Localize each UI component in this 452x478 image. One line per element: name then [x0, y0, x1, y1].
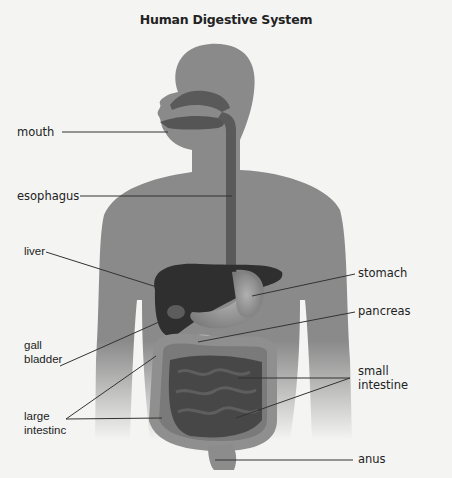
- label-large-intestine-line2: intestinc: [24, 423, 66, 437]
- small-intestine-organ: [169, 356, 262, 438]
- label-gall-bladder-line1: gall: [24, 338, 42, 352]
- label-small-intestine-line2: intestine: [358, 378, 408, 392]
- label-stomach: stomach: [358, 266, 407, 280]
- label-anus: anus: [358, 452, 386, 466]
- label-large-intestine-line1: large: [24, 409, 50, 423]
- label-small-intestine-line1: small: [358, 364, 389, 378]
- label-gall-bladder-line2: bladder: [24, 352, 62, 366]
- label-liver: liver: [24, 244, 45, 258]
- label-mouth: mouth: [17, 125, 54, 139]
- label-pancreas: pancreas: [358, 304, 411, 318]
- label-esophagus: esophagus: [17, 189, 79, 203]
- rectum: [208, 444, 236, 470]
- digestive-system-figure: [0, 0, 452, 478]
- gall-bladder-organ: [167, 305, 185, 319]
